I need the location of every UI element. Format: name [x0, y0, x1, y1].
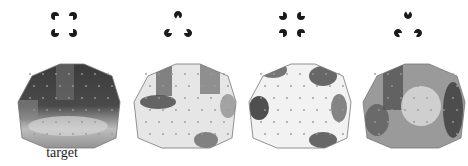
topomap-non-illusory-square — [243, 60, 357, 156]
rotated-triangle-inducers-icon — [390, 8, 426, 40]
rotated-square-inducers-icon — [276, 8, 308, 40]
topomap-illusory-triangle — [128, 60, 242, 156]
stimulus-non-illusory-square — [276, 8, 308, 44]
stimulus-non-illusory-triangle — [390, 8, 426, 44]
kanizsa-triangle-icon — [160, 8, 196, 40]
stimulus-illusory-square — [48, 8, 80, 44]
target-label: target — [32, 145, 92, 161]
topomap-target — [12, 60, 126, 156]
topomap-non-illusory-triangle — [357, 60, 468, 156]
stimulus-illusory-triangle — [160, 8, 196, 44]
kanizsa-square-icon — [48, 8, 80, 40]
